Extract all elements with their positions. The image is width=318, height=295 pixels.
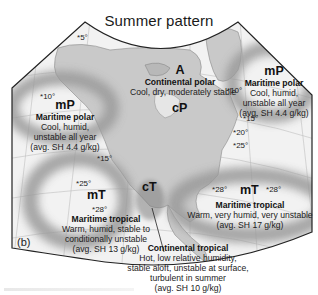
air-mass-description: Warm, very humid, very unstable xyxy=(185,210,315,220)
sst-label: *28° xyxy=(92,205,107,214)
air-mass-name: Maritime polar xyxy=(234,78,314,88)
air-mass-description: Cool, dry, moderately stable xyxy=(130,87,230,97)
air-mass-code-cP: cP xyxy=(172,101,187,115)
air-mass-name: Maritime tropical xyxy=(50,214,162,224)
air-mass-description: (avg. SH 10 g/kg) xyxy=(113,283,263,293)
air-mass-description: Cool, humid, xyxy=(20,122,110,132)
air-mass-description: unstable all year xyxy=(20,132,110,142)
sst-label: *5° xyxy=(77,33,88,42)
air-mass-description: unstable all year xyxy=(234,98,314,108)
air-mass-maritime-polar-atlantic: mP Maritime polar Cool, humid, unstable … xyxy=(234,64,314,118)
sst-label: *25° xyxy=(76,179,91,188)
air-mass-description: Warm, humid, stable to xyxy=(50,224,162,234)
air-mass-name: Maritime polar xyxy=(20,112,110,122)
air-mass-arctic-continental-polar: A Continental polar Cool, dry, moderatel… xyxy=(130,63,230,97)
sst-label: *28° xyxy=(212,185,227,194)
air-mass-code: A xyxy=(130,63,230,77)
air-mass-description: (avg. SH 4.4 g/kg) xyxy=(234,108,314,118)
air-mass-code-mT-pacific: mT xyxy=(87,188,106,202)
air-mass-continental-tropical: Continental tropical Hot, low relative h… xyxy=(113,243,263,293)
panel-label: (b) xyxy=(17,236,30,248)
sst-label: *20° xyxy=(233,128,248,137)
air-mass-name: Continental polar xyxy=(130,77,230,87)
air-mass-description: stable aloft, unstable at surface, xyxy=(113,263,263,273)
air-mass-code-cT: cT xyxy=(142,180,157,194)
air-mass-description: (avg. SH 4.4 g/kg) xyxy=(20,142,110,152)
air-mass-description: Cool, humid, xyxy=(234,88,314,98)
caption-remnant xyxy=(4,288,134,291)
sst-label: *25° xyxy=(233,141,248,150)
air-mass-maritime-polar-pacific: mP Maritime polar Cool, humid, unstable … xyxy=(20,98,110,152)
air-mass-name: Continental tropical xyxy=(113,243,263,253)
air-mass-maritime-tropical-atlantic: Maritime tropical Warm, very humid, very… xyxy=(185,200,315,230)
air-mass-code-mT-atlantic: mT xyxy=(240,183,259,197)
sst-label: *15° xyxy=(97,154,112,163)
air-mass-code: mP xyxy=(234,64,314,78)
air-mass-code: mP xyxy=(20,98,110,112)
air-mass-description: Hot, low relative humidity, xyxy=(113,253,263,263)
air-mass-description: turbulent in summer xyxy=(113,273,263,283)
air-mass-name: Maritime tropical xyxy=(185,200,315,210)
air-mass-description: (avg. SH 17 g/kg) xyxy=(185,220,315,230)
sst-label: *28° xyxy=(266,185,281,194)
